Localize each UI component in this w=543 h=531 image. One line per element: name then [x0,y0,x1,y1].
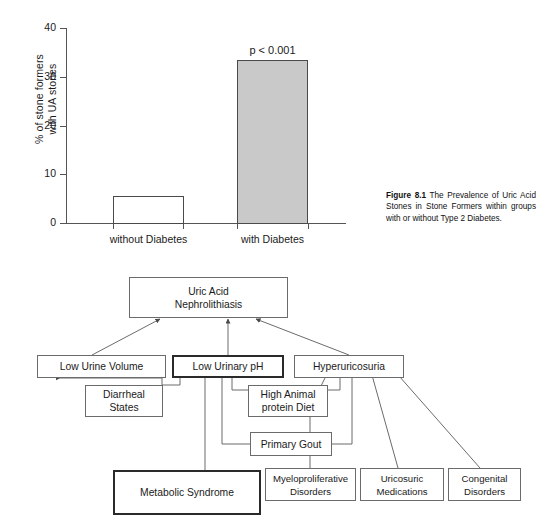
y-tick-label-40: 40 [44,21,56,33]
node-uricosuric-medications: Uricosuric Medications [360,468,444,501]
x-tick-3 [237,224,238,229]
p-value-annotation: p < 0.001 [249,44,295,56]
plot-area: 0 10 20 30 40 without Diabetes [66,28,346,224]
figure-panel: % of stone formers with UA stones 0 10 2… [0,0,543,258]
y-tick-label-20: 20 [44,119,56,131]
node-congenital-disorders: Congenital Disorders [448,468,521,501]
x-tick-4 [308,224,309,229]
y-tick-20: 20 [60,126,66,127]
node-hyperuricosuria: Hyperuricosuria [294,355,404,378]
y-tick-30: 30 [60,77,66,78]
x-category-label-with-diabetes: with Diabetes [241,233,304,245]
y-tick-label-0: 0 [50,216,56,228]
node-low-urine-volume: Low Urine Volume [37,355,166,378]
y-tick-10: 10 [60,174,66,175]
bar-without-diabetes: without Diabetes [113,196,184,224]
node-primary-gout: Primary Gout [250,432,332,456]
node-uric-acid-nephrolithiasis: Uric Acid Nephrolithiasis [129,277,288,318]
node-myeloproliferative-disorders: Myeloproliferative Disorders [265,468,356,501]
bar-chart: % of stone formers with UA stones 0 10 2… [0,0,370,258]
x-tick-1 [113,224,114,229]
node-high-animal-protein-diet: High Animal protein Diet [248,385,328,417]
x-category-label-without-diabetes: without Diabetes [110,233,188,245]
y-tick-label-30: 30 [44,70,56,82]
y-tick-0: 0 [60,223,66,224]
node-diarrheal-states: Diarrheal States [85,385,163,417]
node-metabolic-syndrome: Metabolic Syndrome [113,470,261,515]
figure-caption-label: Figure 8.1 [386,191,426,200]
bar-with-diabetes: p < 0.001 with Diabetes [237,60,308,224]
figure-caption: Figure 8.1 The Prevalence of Uric Acid S… [386,190,536,224]
y-tick-label-10: 10 [44,167,56,179]
y-axis-title: % of stone formers with UA stones [33,19,59,179]
y-axis-line [66,28,67,224]
node-low-urinary-ph: Low Urinary pH [172,355,284,378]
y-tick-40: 40 [60,28,66,29]
uric-acid-pathophysiology-diagram: Uric Acid Nephrolithiasis Low Urine Volu… [0,258,543,531]
x-tick-2 [183,224,184,229]
